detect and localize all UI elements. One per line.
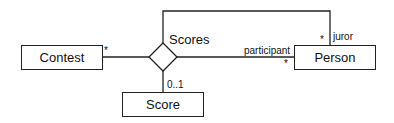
class-score-name: Score	[146, 97, 180, 112]
association-name: Scores	[169, 33, 209, 46]
class-person-name: Person	[314, 50, 355, 65]
class-person: Person	[294, 45, 376, 70]
multiplicity-score: 0..1	[167, 80, 184, 90]
role-juror: juror	[333, 32, 353, 42]
class-contest-name: Contest	[40, 50, 85, 65]
class-score: Score	[122, 92, 204, 117]
role-participant: participant	[244, 46, 290, 56]
class-contest: Contest	[21, 45, 103, 70]
association-diamond	[149, 43, 177, 71]
multiplicity-participant: *	[284, 59, 288, 69]
multiplicity-juror: *	[320, 35, 324, 45]
multiplicity-contest: *	[104, 46, 108, 56]
